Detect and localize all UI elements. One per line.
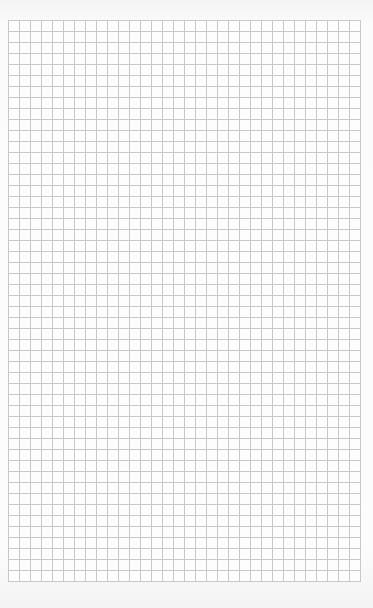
graph-grid — [8, 20, 361, 582]
paper-sheet — [0, 0, 373, 608]
